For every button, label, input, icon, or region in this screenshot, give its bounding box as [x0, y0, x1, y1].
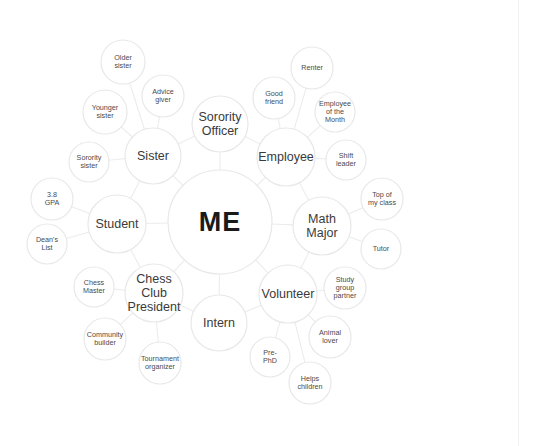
mind-map-link [348, 236, 363, 242]
node-circle-advice-giver[interactable] [142, 75, 184, 117]
mind-map-link [348, 207, 364, 214]
mind-map-link [130, 249, 141, 269]
mind-map-link [294, 87, 307, 130]
node-circle-intern[interactable] [191, 295, 247, 351]
node-circle-sister[interactable] [125, 128, 181, 184]
mind-map-link [271, 224, 294, 225]
mind-map-link [244, 136, 261, 144]
node-circle-sorority-officer[interactable] [192, 96, 248, 152]
node-circle-helps-children[interactable] [289, 362, 331, 404]
mind-map-link [113, 289, 126, 290]
mind-map-link [295, 321, 305, 363]
node-circle-volunteer[interactable] [259, 265, 317, 323]
mind-map-link [275, 321, 280, 339]
page-margin-rule [518, 0, 519, 446]
mind-map-link [129, 82, 144, 130]
mind-map-link [120, 312, 134, 325]
node-circle-top-of-my-class[interactable] [361, 178, 403, 220]
mind-map-svg [0, 0, 540, 446]
node-circle-good-friend[interactable] [253, 77, 295, 119]
node-circle-pre-phd[interactable] [250, 337, 290, 377]
node-circle-sorority-sister[interactable] [69, 142, 109, 182]
node-circle-student[interactable] [88, 195, 146, 253]
mind-map-link [278, 118, 280, 130]
node-circle-older-sister[interactable] [101, 40, 145, 84]
mind-map-link [156, 321, 158, 343]
node-circle-deans-list[interactable] [27, 224, 67, 264]
node-circle-shift-leader[interactable] [326, 140, 366, 180]
mind-map-link [307, 125, 321, 138]
circles-layer [27, 40, 403, 404]
mind-map-link [130, 180, 140, 199]
mind-map-link [301, 251, 310, 269]
node-circle-math-major[interactable] [293, 197, 351, 255]
node-circle-me[interactable] [168, 170, 272, 274]
mind-map-link [299, 182, 309, 201]
node-circle-tutor[interactable] [361, 229, 401, 269]
mind-map-link [244, 305, 262, 313]
mind-map-link [173, 259, 185, 272]
node-circle-tournament-organizer[interactable] [139, 342, 181, 384]
mind-map-link [308, 314, 316, 323]
mind-map-link [157, 116, 159, 130]
mind-map-link [177, 136, 195, 145]
node-circle-renter[interactable] [291, 47, 333, 89]
mind-map-link [120, 126, 133, 138]
mind-map-link [71, 206, 91, 214]
node-circle-study-group-partner[interactable] [324, 267, 366, 309]
node-circle-younger-sister[interactable] [83, 90, 127, 134]
mind-map-link [65, 232, 90, 239]
mind-map-link [256, 177, 266, 187]
mind-map-link [255, 259, 269, 274]
mind-map-link [108, 159, 126, 161]
node-circle-chess-club-president[interactable] [125, 264, 183, 322]
node-circle-employee[interactable] [257, 128, 315, 186]
mind-map-canvas: MESisterSorority OfficerEmployeeMath Maj… [0, 0, 540, 446]
node-circle-gpa[interactable] [31, 178, 73, 220]
node-circle-chess-master[interactable] [74, 267, 114, 307]
node-circle-community-builder[interactable] [84, 318, 126, 360]
mind-map-link [314, 158, 327, 159]
node-circle-animal-lover[interactable] [309, 316, 351, 358]
mind-map-link [172, 175, 183, 186]
node-circle-employee-of-month[interactable] [315, 92, 355, 132]
mind-map-link [179, 305, 194, 312]
